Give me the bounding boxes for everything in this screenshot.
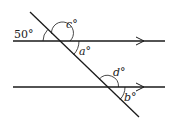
diagram-svg: 50° c° a° d° b° xyxy=(0,0,177,127)
angle-a-label: a° xyxy=(79,45,91,58)
angle-50-label: 50° xyxy=(14,28,34,41)
parallel-lines-diagram: 50° c° a° d° b° xyxy=(0,0,177,127)
angle-50-arc xyxy=(43,30,48,41)
angle-b-label: b° xyxy=(124,91,137,104)
angle-d-label: d° xyxy=(113,66,126,79)
transversal-line xyxy=(30,12,139,117)
angle-c-label: c° xyxy=(66,18,78,31)
